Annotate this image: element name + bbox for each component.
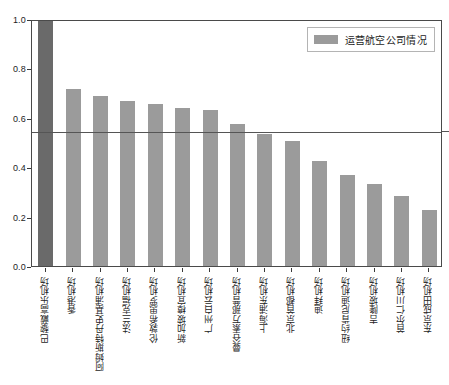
y-tick-mark bbox=[27, 20, 31, 21]
x-tick-label: 巴黎戴高乐机场 bbox=[40, 276, 49, 343]
x-tick-label: 首尔仁川机场 bbox=[396, 276, 405, 333]
threshold-line-extension bbox=[442, 131, 449, 132]
bar bbox=[148, 104, 163, 266]
bar bbox=[340, 175, 355, 266]
x-tick-mark bbox=[45, 268, 46, 272]
x-tick-label: 新加坡樟宜机场 bbox=[177, 276, 186, 343]
legend-label: 运营航空公司情况 bbox=[345, 32, 427, 47]
x-tick-mark bbox=[237, 268, 238, 272]
bar bbox=[203, 110, 218, 266]
x-tick-mark bbox=[100, 268, 101, 272]
bar bbox=[422, 210, 437, 266]
bar bbox=[285, 141, 300, 266]
legend-swatch-icon bbox=[314, 35, 338, 44]
chart-legend: 运营航空公司情况 bbox=[307, 27, 435, 52]
y-tick-mark bbox=[27, 267, 31, 268]
plot-area: 运营航空公司情况 bbox=[31, 20, 442, 267]
bar bbox=[394, 196, 409, 266]
x-tick-label: 上海浦东机场 bbox=[259, 276, 268, 333]
x-tick-label: 广州白云机场 bbox=[204, 276, 213, 333]
x-tick-label: 曼谷素万那普机场 bbox=[232, 276, 241, 352]
x-tick-mark bbox=[291, 268, 292, 272]
x-tick-mark bbox=[401, 268, 402, 272]
y-tick-label: 1.0 bbox=[13, 15, 26, 25]
x-tick-mark bbox=[346, 268, 347, 272]
y-tick-mark bbox=[27, 119, 31, 120]
y-tick-label: 0.2 bbox=[13, 213, 26, 223]
y-tick-mark bbox=[27, 69, 31, 70]
x-tick-mark bbox=[182, 268, 183, 272]
x-tick-mark bbox=[319, 268, 320, 272]
bar bbox=[93, 96, 108, 266]
x-tick-mark bbox=[264, 268, 265, 272]
x-tick-label: 吉隆坡机场 bbox=[369, 276, 378, 324]
y-tick-label: 0.4 bbox=[13, 163, 26, 173]
bar bbox=[38, 20, 53, 266]
bar-chart: 0.00.20.40.60.81.0 巴黎戴高乐机场香港机场阿姆斯特丹史基浦机场… bbox=[0, 0, 449, 385]
y-tick-label: 0.8 bbox=[13, 64, 26, 74]
x-tick-label: 纽约肯尼迪机场 bbox=[341, 276, 350, 343]
x-tick-mark bbox=[428, 268, 429, 272]
x-tick-mark bbox=[209, 268, 210, 272]
x-tick-label: 香港机场 bbox=[67, 276, 76, 314]
bar bbox=[120, 101, 135, 266]
y-tick-mark bbox=[27, 218, 31, 219]
y-tick-label: 0.0 bbox=[13, 262, 26, 272]
threshold-line bbox=[32, 132, 441, 133]
x-tick-label: 阿姆斯特丹史基浦机场 bbox=[95, 276, 104, 371]
x-tick-label: 北京首都机场 bbox=[286, 276, 295, 333]
bar bbox=[257, 134, 272, 266]
x-tick-mark bbox=[72, 268, 73, 272]
x-tick-mark bbox=[127, 268, 128, 272]
bar bbox=[367, 184, 382, 266]
x-tick-mark bbox=[154, 268, 155, 272]
x-tick-label: 法兰克福机场 bbox=[122, 276, 131, 333]
y-tick-mark bbox=[27, 168, 31, 169]
y-tick-label: 0.6 bbox=[13, 114, 26, 124]
bar bbox=[312, 161, 327, 266]
x-tick-label: 东京成田机场 bbox=[423, 276, 432, 333]
bar bbox=[66, 89, 81, 266]
y-axis: 0.00.20.40.60.81.0 bbox=[0, 0, 26, 385]
x-tick-mark bbox=[374, 268, 375, 272]
x-tick-label: 迪拜机场 bbox=[314, 276, 323, 314]
x-tick-label: 伦敦希思罗机场 bbox=[149, 276, 158, 343]
bar bbox=[230, 124, 245, 266]
